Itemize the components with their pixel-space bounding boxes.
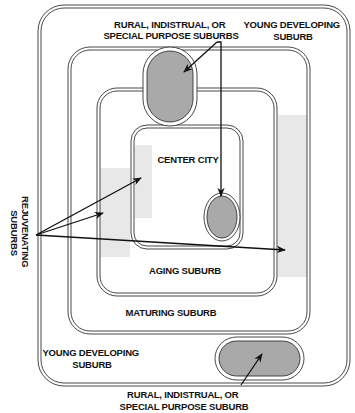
special-purpose-bottom-label: RURAL, INDISTRUAL, OR SPECIAL PURPOSE SU… [120,389,249,412]
aging-suburb-label: AGING SUBURB [149,265,221,276]
young-developing-top-label: YOUNG DEVELOPING SUBURB [243,19,342,42]
center-city-label: CENTER CITY [157,154,219,165]
maturing-suburb-label: MATURING SUBURB [126,307,217,318]
young-developing-bottom-label: YOUNG DEVELOPING SUBURB [42,347,141,370]
special-purpose-oval-top [143,47,197,126]
suburb-zones-diagram: RURAL, INDISTRUAL, OR SPECIAL PURPOSE SU… [0,0,355,413]
rejuvenating-label: REJUVENATING SUBURBS [9,196,31,270]
special-purpose-oval-center [204,193,240,241]
rejuvenating-area-right [278,115,307,277]
rejuvenating-area-left [100,168,130,257]
special-purpose-top-label: RURAL, INDISTRUAL, OR SPECIAL PURPOSE SU… [103,19,238,41]
